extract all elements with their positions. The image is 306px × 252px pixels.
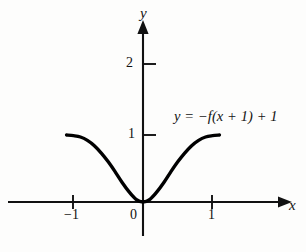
x-tick-label-minus-1: −1 [64,208,79,222]
plot-canvas [0,0,306,252]
equation-annotation: y = −f(x + 1) + 1 [174,109,278,124]
y-tick-label-1: 1 [128,127,135,141]
y-tick-label-2: 2 [126,56,133,70]
y-axis-arrowhead [137,20,148,34]
y-axis-label: y [140,6,147,21]
origin-label: 0 [130,208,137,222]
x-tick-label-1: 1 [208,208,215,222]
graph-figure: y x 2 1 0 −1 1 y = −f(x + 1) + 1 [0,0,306,252]
x-axis-label: x [289,198,296,213]
